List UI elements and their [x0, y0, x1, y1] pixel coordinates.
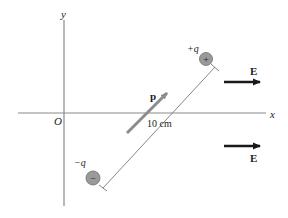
negative-charge-label: −q [74, 157, 86, 168]
positive-charge-label: +q [187, 43, 199, 54]
dimension-tick-bottom [99, 185, 107, 191]
origin-label: O [54, 115, 62, 127]
positive-charge: + [200, 53, 213, 66]
positive-charge-symbol: + [203, 54, 209, 65]
dipole-moment-label: p [150, 90, 156, 102]
x-axis-label: x [269, 108, 275, 120]
y-axis-label: y [60, 8, 66, 20]
field-label-top: E [250, 65, 257, 77]
field-label-bottom: E [250, 152, 257, 164]
separation-label: 10 cm [147, 118, 172, 129]
negative-charge: − [86, 171, 100, 185]
negative-charge-symbol: − [90, 173, 96, 184]
dipole-diagram: y x O 10 cm p + +q − −q E E [0, 0, 288, 218]
